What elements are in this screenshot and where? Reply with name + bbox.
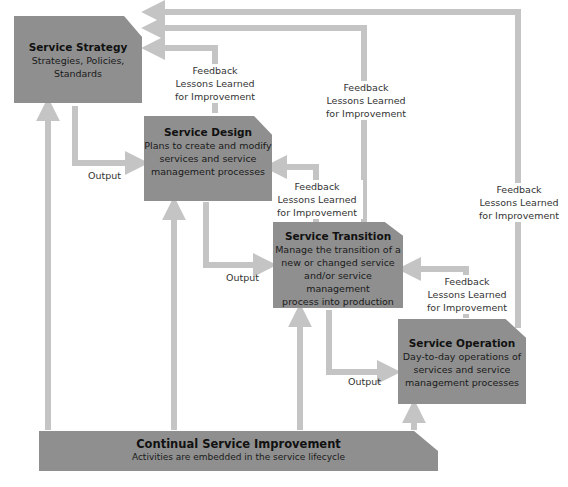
- feedback-label-line: Lessons Learned: [320, 94, 412, 107]
- feedback-label-line: Lessons Learned: [271, 193, 363, 206]
- service-transition-title: Service Transition: [273, 230, 403, 243]
- feedback-label-line: for Improvement: [473, 209, 565, 222]
- feedback-label-line: Feedback: [473, 183, 565, 196]
- feedback-label-transition-to-strategy: Feedback Lessons Learned for Improvement: [320, 81, 412, 120]
- service-strategy-desc: Strategies, Policies,: [14, 54, 142, 67]
- service-design-box: Service Design Plans to create and modif…: [144, 116, 272, 201]
- service-operation-title: Service Operation: [398, 337, 526, 350]
- output-arrow-transition-to-operation: [329, 310, 390, 372]
- feedback-label-line: Lessons Learned: [170, 77, 260, 90]
- feedback-label-line: Feedback: [421, 275, 513, 288]
- output-arrow-strategy-to-design: [75, 106, 138, 163]
- service-operation-desc: Day-to-day operations of: [398, 350, 526, 363]
- output-label-strategy-to-design: Output: [88, 169, 121, 182]
- feedback-label-line: Feedback: [271, 180, 363, 193]
- continual-service-improvement-box: Continual Service Improvement Activities…: [39, 431, 438, 471]
- service-strategy-desc: Standards: [14, 67, 142, 80]
- feedback-label-line: Feedback: [170, 64, 260, 77]
- service-transition-box: Service Transition Manage the transition…: [273, 222, 403, 308]
- service-transition-desc: Manage the transition of a: [273, 243, 403, 256]
- service-transition-desc: new or changed service: [273, 256, 403, 269]
- output-label-design-to-transition: Output: [226, 271, 259, 284]
- output-arrow-design-to-transition: [206, 202, 266, 265]
- feedback-label-line: Lessons Learned: [421, 288, 513, 301]
- feedback-label-line: Feedback: [320, 81, 412, 94]
- feedback-label-design-to-strategy: Feedback Lessons Learned for Improvement: [170, 64, 260, 103]
- service-transition-desc: and/or service management: [273, 269, 403, 295]
- feedback-label-line: for Improvement: [320, 107, 412, 120]
- service-operation-desc: services and service: [398, 363, 526, 376]
- feedback-label-line: for Improvement: [421, 301, 513, 314]
- feedback-label-operation-to-transition: Feedback Lessons Learned for Improvement: [421, 275, 513, 314]
- csi-desc: Activities are embedded in the service l…: [39, 451, 438, 464]
- service-design-desc: management processes: [144, 165, 272, 178]
- output-label-transition-to-operation: Output: [348, 375, 381, 388]
- feedback-label-line: for Improvement: [271, 206, 363, 219]
- feedback-label-operation-to-strategy: Feedback Lessons Learned for Improvement: [473, 183, 565, 222]
- feedback-label-line: for Improvement: [170, 90, 260, 103]
- service-strategy-title: Service Strategy: [14, 41, 142, 54]
- service-design-desc: services and service: [144, 152, 272, 165]
- feedback-label-transition-to-design: Feedback Lessons Learned for Improvement: [271, 180, 363, 219]
- service-design-title: Service Design: [144, 126, 272, 139]
- service-design-desc: Plans to create and modify: [144, 139, 272, 152]
- feedback-label-line: Lessons Learned: [473, 196, 565, 209]
- service-transition-desc: process into production: [273, 295, 403, 308]
- service-strategy-box: Service Strategy Strategies, Policies, S…: [14, 16, 142, 103]
- csi-title: Continual Service Improvement: [39, 437, 438, 451]
- service-operation-box: Service Operation Day-to-day operations …: [398, 319, 526, 404]
- service-operation-desc: management processes: [398, 376, 526, 389]
